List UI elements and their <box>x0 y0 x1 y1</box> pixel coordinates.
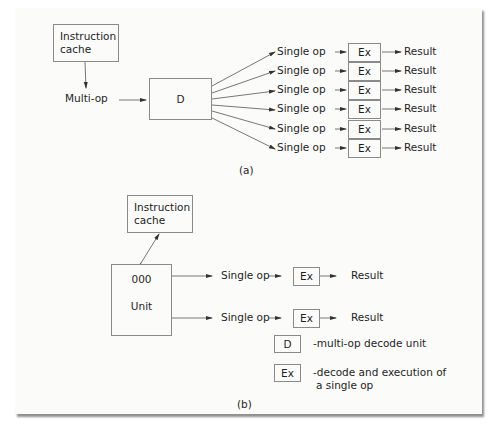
ex-box: Ex <box>348 120 381 139</box>
legend-d-label: D <box>275 338 300 351</box>
single-op-label: Single op <box>277 83 326 96</box>
instruction-cache-label-2: cache <box>60 43 91 56</box>
instruction-cache-label: Instruction <box>134 201 190 214</box>
legend-d-description: -multi-op decode unit <box>313 337 426 350</box>
caption-b: (b) <box>237 398 252 411</box>
ex-box: Ex <box>348 43 381 62</box>
caption-a: (a) <box>239 164 254 177</box>
ooo-unit-label: 000 <box>112 273 171 286</box>
legend-ex-label: Ex <box>275 367 300 380</box>
instruction-cache-box-a: Instruction cache <box>53 24 119 62</box>
legend-ex-description: -decode and execution of <box>313 366 446 379</box>
single-op-label: Single op <box>277 45 326 58</box>
single-op-label: Single op <box>277 64 326 77</box>
result-label: Result <box>404 102 436 115</box>
ex-box: Ex <box>293 309 320 328</box>
result-label: Result <box>404 122 436 135</box>
ex-box: Ex <box>293 267 320 286</box>
ex-label: Ex <box>349 65 380 78</box>
decode-unit-box: D <box>149 78 212 120</box>
ex-label: Ex <box>349 46 380 59</box>
result-label: Result <box>404 45 436 58</box>
legend-ex-description-2: a single op <box>316 379 373 392</box>
single-op-label: Single op <box>277 102 326 115</box>
ex-label: Ex <box>349 123 380 136</box>
result-label: Result <box>404 141 436 154</box>
instruction-cache-box-b: Instruction cache <box>127 195 193 233</box>
result-label: Result <box>404 83 436 96</box>
legend-d-box: D <box>274 335 301 353</box>
single-op-label: Single op <box>221 269 270 282</box>
legend-ex-box: Ex <box>274 364 301 382</box>
ex-label: Ex <box>294 270 319 283</box>
ex-label: Ex <box>349 84 380 97</box>
single-op-label: Single op <box>221 311 270 324</box>
ooo-unit-label-2: Unit <box>112 300 171 313</box>
ex-label: Ex <box>349 142 380 155</box>
result-label: Result <box>351 269 383 282</box>
ex-box: Ex <box>348 100 381 119</box>
ex-box: Ex <box>348 62 381 81</box>
instruction-cache-label: Instruction <box>60 30 116 43</box>
result-label: Result <box>351 311 383 324</box>
ex-label: Ex <box>294 312 319 325</box>
ex-label: Ex <box>349 103 380 116</box>
ex-box: Ex <box>348 139 381 158</box>
decode-unit-label: D <box>150 93 211 106</box>
single-op-label: Single op <box>277 122 326 135</box>
instruction-cache-label-2: cache <box>134 214 165 227</box>
multi-op-label: Multi-op <box>65 92 108 105</box>
result-label: Result <box>404 64 436 77</box>
single-op-label: Single op <box>277 141 326 154</box>
ex-box: Ex <box>348 81 381 100</box>
ooo-unit-box: 000 Unit <box>111 264 172 336</box>
